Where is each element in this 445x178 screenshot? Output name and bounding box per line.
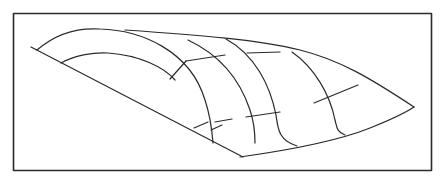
rib-segment-3 — [247, 52, 280, 53]
cross-mark-3a — [314, 85, 358, 103]
shell-diagram — [0, 0, 445, 178]
base-edge — [31, 47, 243, 157]
rib-segment-4 — [211, 125, 222, 130]
rib-segment-1 — [170, 61, 186, 79]
outer-arc — [37, 29, 213, 143]
cross-mark-4a — [194, 122, 208, 128]
cross-mark-1a — [215, 119, 232, 122]
top-ridge — [125, 30, 414, 107]
meridian-2 — [226, 39, 297, 146]
inner-arc — [61, 53, 175, 80]
